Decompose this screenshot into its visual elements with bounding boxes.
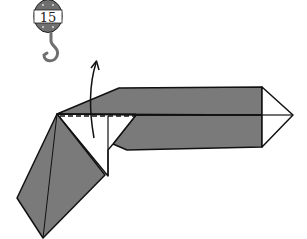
lower-band [113, 115, 262, 150]
step-badge: 15 [34, 0, 62, 61]
badge-rivet [52, 26, 54, 28]
upper-band [57, 87, 262, 115]
crane-hook-icon [44, 33, 58, 61]
right-tip [262, 87, 293, 147]
origami-diagram: 15 [0, 0, 307, 239]
step-number: 15 [40, 10, 57, 25]
badge-rivet [52, 4, 54, 6]
badge-rivet [42, 4, 44, 6]
badge-rivet [42, 26, 44, 28]
